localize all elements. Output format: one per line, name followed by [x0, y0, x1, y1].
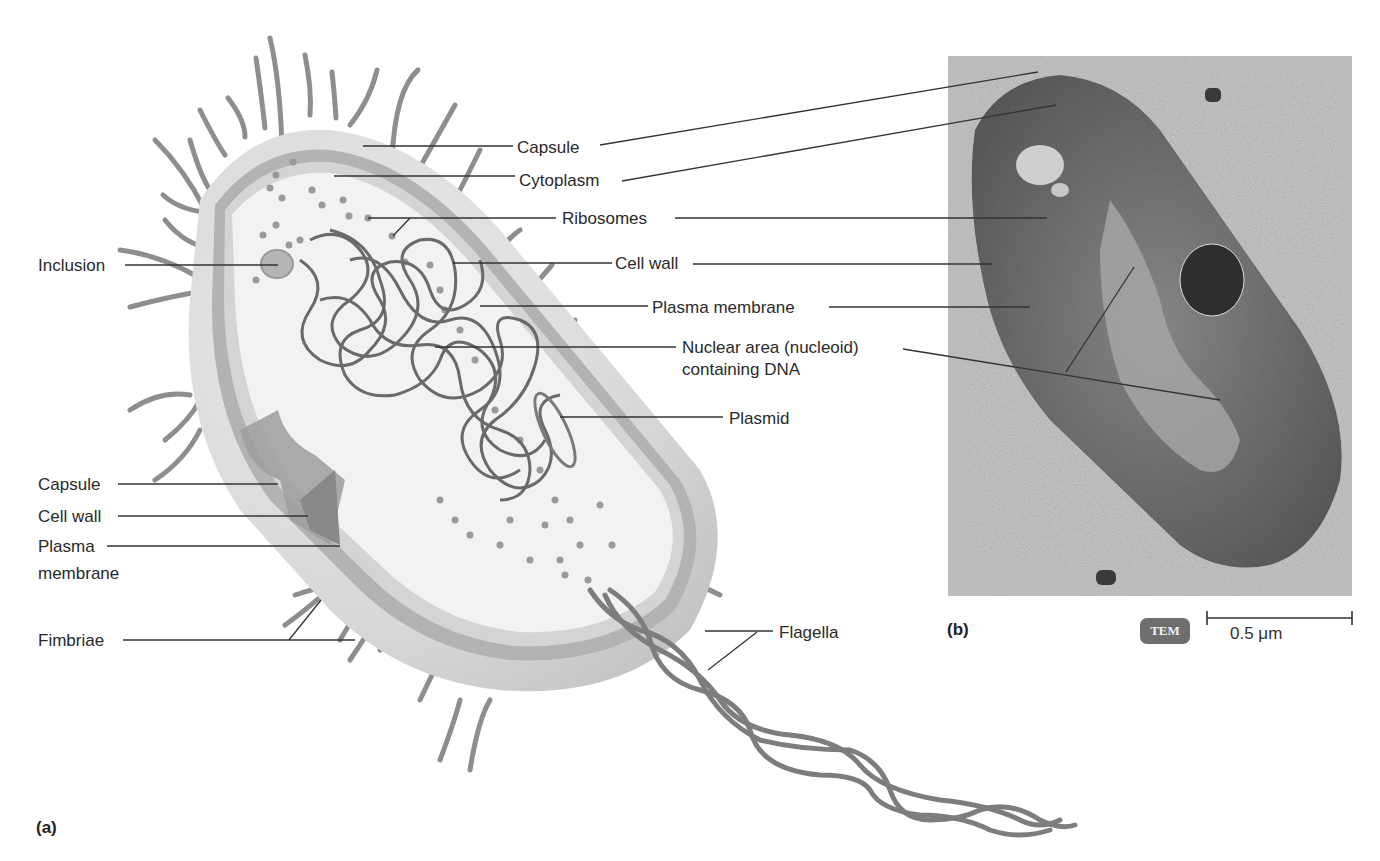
micrograph-inclusion-small: [1051, 183, 1069, 197]
panel-label-b: (b): [947, 620, 969, 640]
label-capsule: Capsule: [517, 138, 579, 158]
inclusion-granule: [261, 250, 293, 278]
tem-micrograph: [948, 56, 1352, 596]
panel-label-a: (a): [36, 818, 57, 838]
tem-badge: TEM: [1140, 618, 1190, 644]
micrograph-inclusion: [1016, 145, 1064, 185]
label-capsule-cutaway: Capsule: [38, 475, 100, 495]
label-cell-wall-cutaway: Cell wall: [38, 507, 101, 527]
micrograph-granule: [1180, 244, 1244, 316]
scale-bar-label: 0.5 μm: [1230, 624, 1282, 644]
label-plasma-membrane-cutaway-line2: membrane: [38, 564, 119, 584]
label-cell-wall: Cell wall: [615, 254, 678, 274]
label-fimbriae: Fimbriae: [38, 631, 104, 651]
label-plasma-membrane: Plasma membrane: [652, 298, 795, 318]
label-flagella: Flagella: [779, 623, 839, 643]
label-cytoplasm: Cytoplasm: [519, 171, 599, 191]
micrograph-debris: [1205, 88, 1221, 102]
figure-artwork: [0, 0, 1380, 861]
label-plasmid: Plasmid: [729, 409, 789, 429]
label-ribosomes: Ribosomes: [562, 209, 647, 229]
bacterium-illustration: [120, 38, 1075, 835]
micrograph-debris: [1096, 570, 1116, 585]
label-plasma-membrane-cutaway: Plasma: [38, 537, 95, 557]
label-nucleoid-line2: containing DNA: [682, 360, 800, 380]
label-inclusion: Inclusion: [38, 256, 105, 276]
label-nucleoid: Nuclear area (nucleoid): [682, 338, 859, 358]
